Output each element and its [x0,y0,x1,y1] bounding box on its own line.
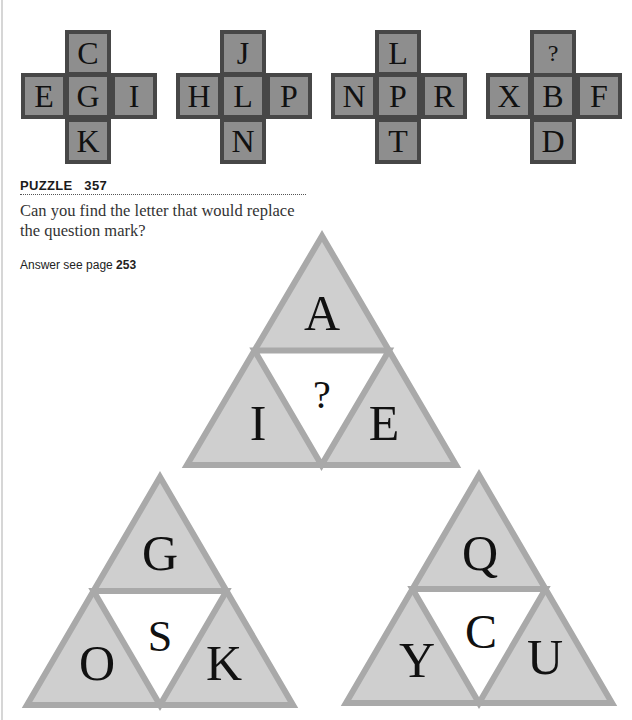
triangle-puzzles: A I E ? G O K S Q Y U C [0,0,632,720]
triangle-top-letter: Q [462,525,498,581]
triangle-center-letter: S [148,612,172,661]
triangle-center-letter: C [465,605,497,658]
triangle-left-letter: I [250,395,267,451]
triangle-center-letter: ? [313,372,331,417]
letter-triangle-3: Q Y U C [346,475,612,703]
letter-triangle-1: A I E ? [187,236,456,465]
triangle-right-letter: K [206,635,242,691]
triangle-left-letter: O [79,635,115,691]
letter-triangle-2: G O K S [27,477,293,705]
triangle-left-letter: Y [399,632,435,688]
triangle-right-letter: E [369,395,400,451]
triangle-top-letter: G [142,525,178,581]
triangle-top-letter: A [304,285,340,341]
triangle-right-letter: U [527,629,563,685]
